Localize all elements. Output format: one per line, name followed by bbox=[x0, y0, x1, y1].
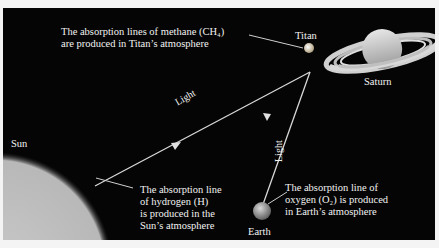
earth-icon bbox=[253, 202, 271, 220]
light-ray-sun-to-titan bbox=[95, 72, 310, 186]
earth-callout: The absorption line of oxygen (O₂) is pr… bbox=[285, 182, 388, 218]
light-label-2: Light bbox=[273, 140, 285, 162]
saturn-label: Saturn bbox=[364, 76, 391, 88]
titan-callout: The absorption lines of methane (CH₄) ar… bbox=[61, 26, 224, 50]
earth-label: Earth bbox=[248, 226, 271, 238]
sun-callout: The absorption line of hydrogen (H) is p… bbox=[140, 184, 222, 232]
saturn-icon bbox=[321, 17, 435, 80]
arrowhead-icon bbox=[263, 113, 271, 121]
sun-label: Sun bbox=[11, 138, 27, 150]
arrowhead-icon bbox=[171, 142, 181, 150]
sun-icon bbox=[3, 152, 113, 240]
titan-icon bbox=[304, 43, 314, 53]
titan-label: Titan bbox=[295, 30, 317, 42]
diagram-panel: Sun Titan Saturn Earth Light Light The a… bbox=[3, 8, 435, 240]
